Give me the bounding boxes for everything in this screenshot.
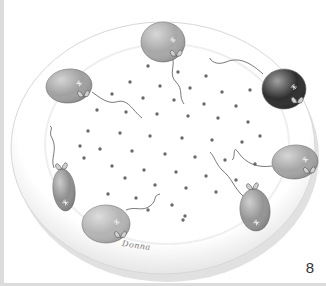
polka-dot [110,92,113,95]
polka-dot [163,152,166,155]
polka-dot [82,156,85,159]
polka-dot [204,174,207,177]
photo-frame: Donna 8 [0,0,326,286]
polka-dot [110,164,113,167]
polka-dot [106,192,109,195]
polka-dot [210,138,213,141]
polka-dot [181,218,184,221]
polka-dot [128,80,131,83]
polka-dot [234,178,237,181]
polka-dot [172,98,175,101]
top-balloon [141,22,185,62]
polka-dot [142,168,145,171]
polka-dot [240,140,243,143]
polka-dot [98,147,101,150]
bottom-left-balloon [82,205,130,243]
polka-dot [148,134,151,137]
polka-dot [176,70,179,73]
polka-dot [214,190,217,193]
polka-dot [86,129,89,132]
polka-dot [258,134,261,137]
polka-dot [202,102,205,105]
polka-dot [204,74,207,77]
polka-dot [234,104,237,107]
polka-dot [246,120,249,123]
polka-dot [130,149,133,152]
plate-scene [0,0,326,286]
polka-dot [123,176,126,179]
upper-right-balloon [262,69,306,109]
polka-dot [183,214,186,217]
polka-dot [146,64,149,67]
polka-dot [158,84,161,87]
polka-dot [174,170,177,173]
polka-dot [95,108,98,111]
polka-dot [223,158,226,161]
polka-dot [141,96,144,99]
polka-dot [193,155,196,158]
page-number: 8 [306,259,314,276]
polka-dot [220,90,223,93]
polka-dot [248,88,251,91]
polka-dot [153,183,156,186]
polka-dot [216,116,219,119]
polka-dot [118,131,121,134]
polka-dot [124,110,127,113]
polka-dot [188,86,191,89]
polka-dot [155,112,158,115]
polka-dot [134,196,137,199]
polka-dot [146,208,149,211]
polka-dot [170,203,173,206]
polka-dot [180,136,183,139]
polka-dot [186,114,189,117]
polka-dot [78,144,81,147]
polka-dot [184,186,187,189]
